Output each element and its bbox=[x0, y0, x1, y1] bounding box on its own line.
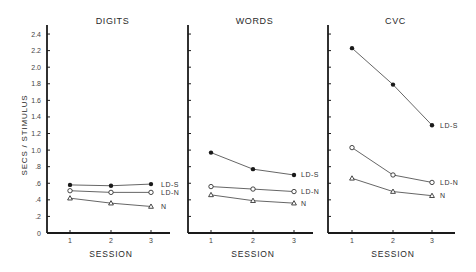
series-label: LD-S bbox=[161, 181, 179, 188]
open-circle-marker bbox=[109, 190, 113, 194]
y-tick-label: .6 bbox=[35, 180, 41, 187]
filled-circle-marker bbox=[391, 82, 395, 86]
series-label: LD-N bbox=[440, 179, 458, 186]
x-tick-label: 2 bbox=[109, 237, 113, 244]
open-circle-marker bbox=[391, 173, 395, 177]
filled-circle-marker bbox=[149, 182, 153, 186]
y-tick-label: .8 bbox=[35, 163, 41, 170]
series-line bbox=[352, 48, 432, 125]
series-n: N bbox=[68, 196, 167, 210]
panel-title: CVC bbox=[385, 16, 406, 26]
series-ld-s: LD-S bbox=[350, 46, 458, 129]
filled-circle-marker bbox=[68, 183, 72, 187]
series-label: N bbox=[301, 200, 307, 207]
x-tick-label: 2 bbox=[391, 237, 395, 244]
series-ld-n: LD-N bbox=[350, 145, 459, 186]
panel-words: WORDS123SESSIONLD-SLD-NN bbox=[188, 16, 319, 259]
y-tick-label: 1.0 bbox=[31, 147, 41, 154]
open-circle-marker bbox=[350, 145, 354, 149]
filled-circle-marker bbox=[109, 184, 113, 188]
open-triangle-marker bbox=[350, 176, 355, 180]
open-triangle-marker bbox=[68, 196, 73, 200]
open-circle-marker bbox=[149, 190, 153, 194]
x-tick-label: 1 bbox=[350, 237, 354, 244]
y-tick-label: 2.2 bbox=[31, 47, 41, 54]
series-ld-n: LD-N bbox=[209, 184, 320, 195]
x-tick-label: 3 bbox=[430, 237, 434, 244]
y-tick-label: 1.8 bbox=[31, 80, 41, 87]
x-tick-label: 3 bbox=[292, 237, 296, 244]
series-label: N bbox=[161, 203, 167, 210]
x-axis-label: SESSION bbox=[231, 249, 274, 259]
filled-circle-marker bbox=[292, 173, 296, 177]
y-tick-label: .2 bbox=[35, 213, 41, 220]
x-tick-label: 2 bbox=[251, 237, 255, 244]
open-circle-marker bbox=[292, 189, 296, 193]
chart-canvas: SECS / STIMULUSDIGITS0.2.4.6.81.01.21.41… bbox=[0, 0, 476, 272]
filled-circle-marker bbox=[209, 150, 213, 154]
open-circle-marker bbox=[68, 189, 72, 193]
panel-title: WORDS bbox=[236, 16, 274, 26]
y-tick-label: 2.4 bbox=[31, 31, 41, 38]
open-circle-marker bbox=[430, 180, 434, 184]
y-tick-label: .4 bbox=[35, 196, 41, 203]
panel-cvc: CVC123SESSIONLD-SLD-NN bbox=[328, 16, 458, 259]
y-tick-label: 2.0 bbox=[31, 64, 41, 71]
series-n: N bbox=[209, 192, 307, 206]
x-axis-label: SESSION bbox=[89, 249, 132, 259]
series-n: N bbox=[350, 176, 446, 199]
series-label: LD-S bbox=[440, 122, 458, 129]
y-tick-label: 1.4 bbox=[31, 113, 41, 120]
x-tick-label: 1 bbox=[68, 237, 72, 244]
series-ld-n: LD-N bbox=[68, 189, 180, 196]
x-tick-label: 3 bbox=[149, 237, 153, 244]
series-ld-s: LD-S bbox=[68, 181, 179, 188]
y-axis-label: SECS / STIMULUS bbox=[20, 95, 29, 176]
panel-title: DIGITS bbox=[96, 16, 130, 26]
x-axis-label: SESSION bbox=[371, 249, 414, 259]
filled-circle-marker bbox=[430, 123, 434, 127]
open-triangle-marker bbox=[209, 192, 214, 196]
figure-three-panel-line-chart: SECS / STIMULUSDIGITS0.2.4.6.81.01.21.41… bbox=[0, 0, 476, 272]
open-circle-marker bbox=[251, 187, 255, 191]
series-label: LD-N bbox=[301, 188, 319, 195]
open-circle-marker bbox=[209, 184, 213, 188]
panel-digits: DIGITS0.2.4.6.81.01.21.41.61.82.02.22.41… bbox=[31, 16, 179, 259]
filled-circle-marker bbox=[251, 167, 255, 171]
series-ld-s: LD-S bbox=[209, 150, 319, 178]
y-tick-label: 0 bbox=[37, 230, 41, 237]
filled-circle-marker bbox=[350, 46, 354, 50]
y-tick-label: 1.2 bbox=[31, 130, 41, 137]
x-tick-label: 1 bbox=[209, 237, 213, 244]
series-label: LD-N bbox=[161, 189, 179, 196]
series-label: LD-S bbox=[301, 171, 319, 178]
series-label: N bbox=[440, 192, 446, 199]
series-line bbox=[211, 153, 294, 175]
y-tick-label: 1.6 bbox=[31, 97, 41, 104]
